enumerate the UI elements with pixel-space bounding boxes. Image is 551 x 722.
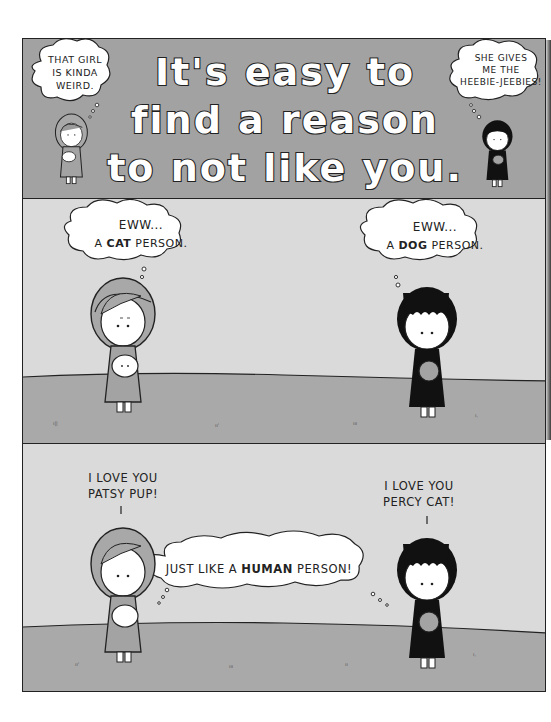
svg-text:ı,: ı, <box>473 651 476 657</box>
title-line: find a reason <box>131 98 439 142</box>
thought-text-line: HEEBIE-JEEBIES! <box>460 77 542 87</box>
title-line: to not like you. <box>107 146 463 190</box>
speech-text-line: I LOVE YOU <box>384 479 454 493</box>
svg-text:ıı: ıı <box>345 661 348 667</box>
thought-bubble-cat-person: EWW... A CAT PERSON. <box>64 199 187 278</box>
cat-icon <box>419 612 439 632</box>
comic-panel-3: ıı'ıııııı, I LOVE YOU PATSY PUP! I LOVE … <box>22 443 546 692</box>
thought-text-line: EWW... <box>119 218 163 232</box>
svg-text:ı||: ı|| <box>53 420 58 427</box>
comic-title: It's easy to find a reason to not like y… <box>107 50 463 190</box>
thought-text-line: THAT GIRL <box>47 54 102 65</box>
thought-bubble-human-person: JUST LIKE A HUMAN PERSON! <box>150 531 388 606</box>
thought-text: JUST LIKE A HUMAN PERSON! <box>165 562 352 576</box>
thought-bubble-left: THAT GIRL IS KINDA WEIRD. <box>32 39 110 118</box>
svg-text:ıı': ıı' <box>75 661 79 667</box>
panel-3-art: ıı'ıııııı, I LOVE YOU PATSY PUP! I LOVE … <box>23 444 546 692</box>
thought-bubble-right: SHE GIVES ME THE HEEBIE-JEEBIES! <box>450 39 542 118</box>
character-right-small <box>482 120 512 186</box>
character-left-small <box>55 114 87 184</box>
thought-text-line: ME THE <box>482 65 519 75</box>
thought-text-line: A CAT PERSON. <box>95 237 188 250</box>
ground <box>23 373 546 444</box>
svg-text:ıı': ıı' <box>215 422 219 428</box>
comic-panel-2: ı||ıı'ıııı, EWW... A CAT PERSON. EWW... … <box>22 198 546 444</box>
dog-icon <box>112 605 138 627</box>
thought-text-line: A DOG PERSON. <box>386 239 483 252</box>
cat-icon <box>419 361 439 381</box>
svg-text:ı,: ı, <box>475 412 478 418</box>
comic-panel-title: THAT GIRL IS KINDA WEIRD. It's easy to f… <box>22 38 546 199</box>
thought-text-line: IS KINDA <box>52 67 98 78</box>
speech-text-line: I LOVE YOU <box>88 471 158 485</box>
thought-text-line: WEIRD. <box>56 80 94 91</box>
panel-1-art: THAT GIRL IS KINDA WEIRD. It's easy to f… <box>23 39 546 199</box>
page-edge-shadow <box>546 40 551 440</box>
speech-right: I LOVE YOU PERCY CAT! <box>383 479 455 524</box>
panel-2-art: ı||ıı'ıııı, EWW... A CAT PERSON. EWW... … <box>23 199 546 444</box>
svg-text:ııı: ııı <box>229 663 233 669</box>
speech-text-line: PATSY PUP! <box>88 487 158 501</box>
thought-text-line: EWW... <box>413 220 457 234</box>
svg-text:ııı: ııı <box>353 420 357 426</box>
thought-bubble-dog-person: EWW... A DOG PERSON. <box>360 199 483 287</box>
speech-text-line: PERCY CAT! <box>383 495 455 509</box>
dog-icon <box>112 355 138 377</box>
title-line: It's easy to <box>155 50 415 94</box>
ground <box>23 623 546 693</box>
speech-left: I LOVE YOU PATSY PUP! <box>88 471 158 514</box>
thought-text-line: SHE GIVES <box>475 53 528 63</box>
